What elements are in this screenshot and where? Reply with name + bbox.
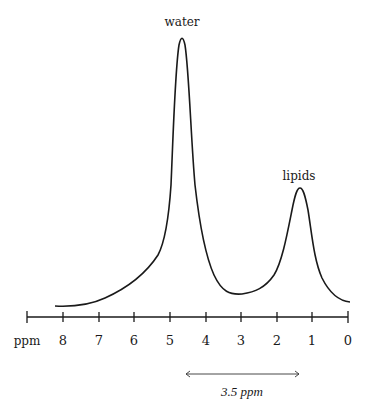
tick-label-1: 1 [308, 333, 316, 348]
separation-arrow [186, 371, 299, 377]
tick-label-5: 5 [166, 333, 174, 348]
tick-label-6: 6 [130, 333, 138, 348]
tick-label-3: 3 [237, 333, 245, 348]
axis-unit-label: ppm [14, 334, 41, 348]
water-peak-label: water [164, 15, 199, 29]
lipids-peak-label: lipids [282, 169, 315, 183]
separation-label: 3.5 ppm [220, 384, 263, 399]
tick-label-0: 0 [344, 333, 352, 348]
tick-label-4: 4 [202, 333, 210, 348]
nmr-spectrum-chart: ppm 8 7 6 5 4 3 2 1 0 water lipids 3.5 p… [0, 0, 370, 412]
tick-label-8: 8 [59, 333, 67, 348]
tick-label-7: 7 [95, 333, 103, 348]
tick-label-2: 2 [273, 333, 281, 348]
